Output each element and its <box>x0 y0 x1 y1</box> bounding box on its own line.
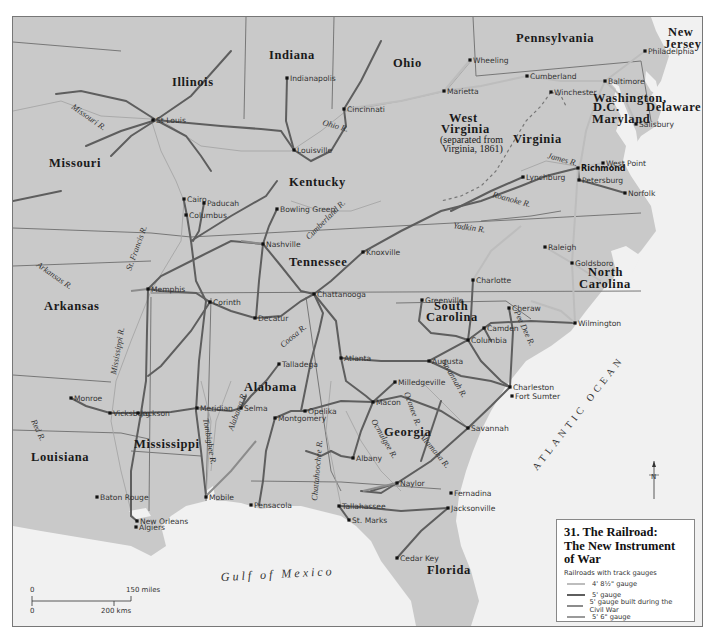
city-dot-icon <box>347 518 350 521</box>
city-dot-icon <box>468 58 471 61</box>
city-marker: Paducah <box>202 199 239 208</box>
city-label: Atlanta <box>344 354 371 363</box>
city-marker: Algiers <box>134 523 165 532</box>
map-legend: 31. The Railroad: The New Instrument of … <box>556 519 695 622</box>
city-marker: Tallahassee <box>337 502 386 511</box>
state-label: Indiana <box>269 48 315 62</box>
city-dot-icon <box>442 89 445 92</box>
city-marker: Chattanooga <box>312 290 366 299</box>
legend-swatch-5ft6in-gauge <box>567 616 585 618</box>
state-label: Alabama <box>244 380 297 394</box>
city-label: Albany <box>356 454 383 463</box>
city-marker: Meridian <box>195 404 233 413</box>
state-label: Jersey <box>664 37 702 51</box>
city-label: Macon <box>376 398 401 407</box>
city-marker: Milledgeville <box>393 378 445 387</box>
city-label: Jackson <box>140 409 170 418</box>
city-marker: Petersburg <box>577 176 623 185</box>
city-marker: Marietta <box>442 87 478 96</box>
state-label: Maryland <box>592 112 650 126</box>
city-dot-icon <box>543 245 546 248</box>
city-marker: Fort Sumter <box>510 392 561 401</box>
city-marker: Cumberland <box>525 72 576 81</box>
city-dot-icon <box>351 456 354 459</box>
city-label: Decatur <box>258 314 289 323</box>
state-label: Louisiana <box>31 450 89 464</box>
city-label: Raleigh <box>548 243 576 252</box>
city-dot-icon <box>623 191 626 194</box>
city-label: Paducah <box>207 199 239 208</box>
city-label: Charlotte <box>476 276 512 285</box>
city-label: Chattanooga <box>317 290 366 299</box>
city-marker: Montgomery <box>273 414 326 423</box>
state-label: Kentucky <box>289 175 346 189</box>
map-frame: IndianapolisCincinnatiWheelingMariettaCu… <box>12 16 703 627</box>
city-marker: Lynchburg <box>521 173 565 182</box>
city-label: Corinth <box>213 298 241 307</box>
city-marker: Corinth <box>208 298 241 307</box>
state-label: Pennsylvania <box>516 31 594 45</box>
city-label: Baton Rouge <box>100 493 149 502</box>
city-dot-icon <box>195 406 198 409</box>
city-label: Pensacola <box>254 501 292 510</box>
city-label: Camden <box>487 324 519 333</box>
scale-kms-label: 200 kms <box>101 607 131 615</box>
city-marker: Columbus <box>184 211 227 220</box>
state-label: Florida <box>427 563 471 577</box>
city-marker: St. Marks <box>347 516 387 525</box>
city-label: Richmond <box>581 164 626 173</box>
city-marker: Baton Rouge <box>95 493 149 502</box>
city-label: Selma <box>244 404 268 413</box>
city-label: Savannah <box>471 424 509 433</box>
state-label: Virginia <box>513 132 562 146</box>
city-dot-icon <box>339 356 342 359</box>
city-dot-icon <box>570 261 573 264</box>
city-marker: Louisville <box>292 146 332 155</box>
city-dot-icon <box>273 416 276 419</box>
city-label: Winchester <box>554 88 598 97</box>
city-label: Fort Sumter <box>515 392 561 401</box>
city-dot-icon <box>303 409 306 412</box>
city-dot-icon <box>134 525 137 528</box>
city-dot-icon <box>342 107 345 110</box>
city-marker: St Louis <box>151 116 185 125</box>
city-dot-icon <box>136 411 139 414</box>
city-label: Lynchburg <box>526 173 565 182</box>
city-dot-icon <box>184 213 187 216</box>
legend-swatch-5ft-gauge <box>567 594 585 596</box>
city-marker: Monroe <box>69 394 102 403</box>
west-virginia-note-line2: Virginia, 1861) <box>442 143 503 155</box>
city-dot-icon <box>525 74 528 77</box>
city-marker: Naylor <box>395 479 425 488</box>
city-dot-icon <box>446 506 449 509</box>
city-dot-icon <box>549 90 552 93</box>
city-dot-icon <box>204 495 207 498</box>
city-label: Memphis <box>151 285 185 294</box>
city-marker: Raleigh <box>543 243 576 252</box>
compass-north-label: N <box>651 473 656 481</box>
city-dot-icon <box>507 306 510 309</box>
city-dot-icon <box>482 326 485 329</box>
city-label: Cincinnati <box>347 105 385 114</box>
city-dot-icon <box>521 175 524 178</box>
city-label: Algiers <box>139 523 165 532</box>
city-label: Montgomery <box>278 414 327 423</box>
state-label: Illinois <box>172 75 214 89</box>
state-label: Mississippi <box>134 437 200 451</box>
state-label: Missouri <box>49 156 101 170</box>
city-dot-icon <box>182 197 185 200</box>
city-dot-icon <box>253 316 256 319</box>
city-dot-icon <box>395 481 398 484</box>
legend-label: 5' 6" gauge <box>592 613 631 621</box>
city-label: Knoxville <box>366 248 401 257</box>
city-marker: Fernadina <box>449 489 491 498</box>
city-dot-icon <box>361 250 364 253</box>
city-dot-icon <box>603 79 606 82</box>
city-dot-icon <box>69 396 72 399</box>
legend-label: 5' gauge built during the Civil War <box>590 598 689 614</box>
city-marker: Talladega <box>277 360 317 369</box>
state-label: Delaware <box>646 100 701 114</box>
city-marker: Knoxville <box>361 248 400 257</box>
city-marker: Wilmington <box>573 319 621 328</box>
city-marker: Jackson <box>136 409 170 418</box>
